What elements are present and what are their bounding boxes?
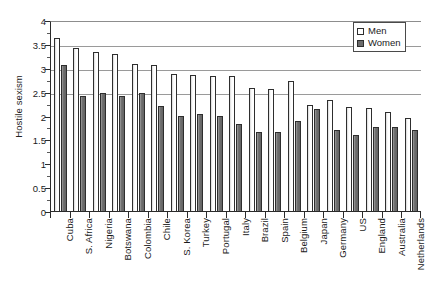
x-axis-tick-label: S. Korea [181,218,192,256]
bar-women [256,132,262,212]
bar-group [268,22,288,212]
bar-women [353,135,359,212]
y-axis-tick-label: 1 [6,159,46,170]
bar-men [327,100,333,212]
hostile-sexism-bar-chart: Hostile sexism 00.511.522.533.54 CubaS. … [0,0,431,288]
x-axis-tick-label: Japan [318,218,329,244]
bar-women [314,109,320,212]
x-axis-tick-label: Portugal [220,218,231,254]
legend-item-men: Men [357,25,401,37]
y-axis-tick-label: 3.5 [6,39,46,50]
y-axis-tick-label: 0.5 [6,183,46,194]
bar-men [288,81,294,212]
y-axis-tick-label: 1.5 [6,135,46,146]
chart-legend: Men Women [353,22,406,52]
x-axis-tick-label: Cuba [64,218,75,241]
bar-group [112,22,132,212]
bar-women [236,124,242,212]
bar-group [327,22,347,212]
bar-men [73,48,79,212]
bar-men [151,65,157,212]
bar-group [54,22,74,212]
bar-men [171,74,177,212]
bar-men [54,38,60,212]
bar-women [217,116,223,212]
bar-men [268,89,274,212]
bar-group [171,22,191,212]
legend-label-women: Women [368,38,401,48]
bar-group [288,22,308,212]
bar-women [295,121,301,212]
bar-women [275,132,281,212]
bar-men [132,64,138,212]
bar-men [346,107,352,212]
bar-men [366,108,372,212]
x-axis-tick-label: Brazil [259,218,270,242]
bar-men [93,52,99,212]
bar-men [112,54,118,212]
bar-women [197,114,203,212]
bar-men [190,75,196,212]
bar-group [307,22,327,212]
x-axis-tick-label: England [376,218,387,254]
bar-women [61,65,67,212]
x-axis-tick-label: S. Africa [83,218,94,254]
bar-women [139,93,145,212]
x-axis-tick-label: Spain [279,218,290,243]
x-axis-tick-label: Australia [396,218,407,256]
bar-group [210,22,230,212]
x-axis-tick-label: Chile [161,218,172,240]
bar-women [373,127,379,212]
x-axis-tick-label: Turkey [200,218,211,247]
bar-men [405,118,411,212]
bar-women [100,93,106,212]
bar-group [190,22,210,212]
bar-men [229,76,235,212]
bar-women [178,116,184,212]
x-axis-tick-label: Colombia [142,218,153,259]
bar-men [210,76,216,212]
legend-swatch-women-icon [357,40,364,47]
bar-men [307,105,313,212]
bar-men [385,112,391,212]
y-axis-tick-label: 3 [6,63,46,74]
x-axis-tick-label: Nigeria [103,218,114,249]
x-axis-tick-label: Botswana [122,218,133,261]
x-axis-tick-label: Germany [337,218,348,258]
bar-group [132,22,152,212]
legend-item-women: Women [357,37,401,49]
y-axis-tick-label: 2 [6,111,46,122]
y-axis-title: Hostile sexism [13,42,24,172]
bar-women [412,130,418,212]
bar-men [249,88,255,212]
bar-group [93,22,113,212]
bar-group [73,22,93,212]
bar-women [392,127,398,212]
legend-swatch-men-icon [357,28,364,35]
y-axis-tick-label: 0 [6,207,46,218]
x-axis-tick-label: Italy [240,218,251,236]
bar-women [119,96,125,212]
x-axis-tick-label: Netherlands [415,218,426,270]
x-axis-tick-label: US [357,218,368,231]
bar-women [334,130,340,212]
x-axis-tick-label: Belgium [298,218,309,253]
bar-group [229,22,249,212]
y-axis-tick-label: 4 [6,16,46,27]
legend-label-men: Men [368,26,386,36]
bar-women [80,96,86,212]
bar-women [158,106,164,212]
x-axis-labels: CubaS. AfricaNigeriaBotswanaColombiaChil… [50,218,421,288]
bar-group [249,22,269,212]
bar-group [405,22,425,212]
y-axis-tick-label: 2.5 [6,87,46,98]
bar-group [151,22,171,212]
